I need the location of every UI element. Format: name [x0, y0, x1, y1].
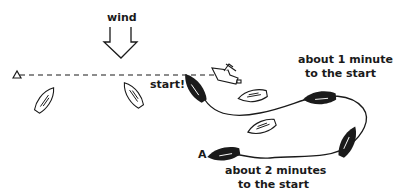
one-minute-label-line1: about 1 minute: [298, 53, 393, 66]
wind-label: wind: [107, 11, 137, 24]
boat-black-1min-icon: [303, 90, 337, 106]
boat-white-3-icon: [237, 88, 268, 104]
pin-mark-icon: [13, 71, 21, 78]
boat-white-1-icon: [32, 84, 58, 114]
wind-arrow-icon: [104, 27, 137, 58]
boat-white-2-icon: [120, 79, 146, 109]
two-minutes-label-line2: to the start: [238, 178, 309, 191]
committee-boat-icon: [212, 64, 241, 84]
boat-black-a-icon: [206, 145, 241, 163]
boat-black-turn-icon: [335, 124, 361, 159]
boat-a-label: A: [198, 148, 207, 161]
one-minute-label-line2: to the start: [305, 67, 376, 80]
two-minutes-label-line1: about 2 minutes: [225, 164, 326, 177]
start-label: start!: [150, 78, 185, 91]
boat-white-4-icon: [246, 117, 277, 138]
